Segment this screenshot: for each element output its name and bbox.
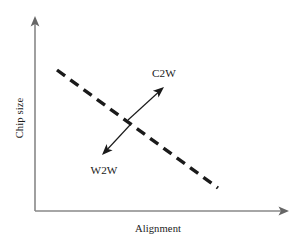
- y-axis-label: Chip size: [14, 97, 25, 138]
- x-axis-label: Alignment: [135, 223, 181, 234]
- c2w-label: C2W: [152, 67, 176, 79]
- canvas-background: [0, 0, 301, 246]
- figure-root: C2W W2W Alignment Chip size: [0, 0, 301, 246]
- w2w-label: W2W: [90, 164, 117, 176]
- diagram-canvas: C2W W2W Alignment Chip size: [0, 0, 301, 246]
